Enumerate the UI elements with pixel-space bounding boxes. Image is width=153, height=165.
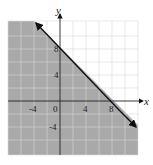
tick-y--4: -4 (49, 122, 57, 132)
tick-y-4: 4 (54, 70, 59, 80)
tick-x-4: 4 (83, 104, 88, 114)
tick-x-8: 8 (109, 104, 114, 114)
tick-x--4: -4 (29, 104, 37, 114)
y-axis-label: y (55, 4, 61, 16)
inequality-graph: x y -4 0 4 8 8 4 -4 (0, 0, 153, 165)
tick-y-8: 8 (54, 44, 59, 54)
tick-x-0: 0 (53, 104, 58, 114)
x-axis-label: x (143, 95, 149, 107)
